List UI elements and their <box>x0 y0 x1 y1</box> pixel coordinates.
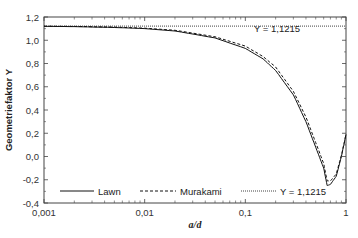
y-tick-label: -0,2 <box>23 174 39 185</box>
x-tick-label: 0,01 <box>135 207 154 218</box>
y-tick-label: 0,2 <box>26 128 39 139</box>
x-tick-label: 1 <box>343 207 348 218</box>
y-tick-label: 0,8 <box>26 58 39 69</box>
chart: -0,4-0,20,00,20,40,60,81,01,20,0010,010,… <box>0 0 358 238</box>
y-tick-label: 1,2 <box>26 12 39 23</box>
x-axis-title: a/d <box>189 219 203 230</box>
y-tick-label: 0,0 <box>26 151 39 162</box>
legend: LawnMurakamiY = 1,1215 <box>60 186 326 197</box>
series-lines <box>44 26 346 186</box>
legend-label: Lawn <box>98 186 121 197</box>
legend-label: Y = 1,1215 <box>280 186 326 197</box>
legend-label: Murakami <box>180 186 222 197</box>
series-murakami <box>44 26 346 181</box>
y-tick-label: 0,6 <box>26 81 39 92</box>
y-tick-label: 0,4 <box>26 105 39 116</box>
x-tick-label: 0,001 <box>32 207 56 218</box>
x-tick-label: 0,1 <box>239 207 252 218</box>
y-axis-title: Geometriefaktor Y <box>3 68 14 151</box>
y-tick-label: 1,0 <box>26 35 39 46</box>
constant-annotation: Y = 1,1215 <box>254 23 300 34</box>
